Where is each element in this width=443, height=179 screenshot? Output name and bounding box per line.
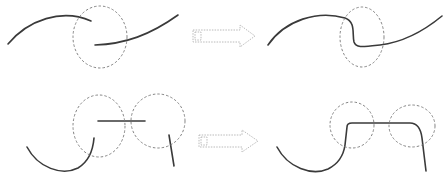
- dashed-circle-right: [389, 105, 435, 147]
- curve-segment-vertical: [169, 135, 174, 166]
- curve-segment-left: [8, 16, 91, 44]
- diagram-canvas: Curve joining: disconnected stroke segme…: [0, 0, 443, 179]
- dashed-circle: [340, 7, 384, 67]
- curve-segment-right: [95, 15, 178, 45]
- row-1-after: [268, 7, 442, 67]
- row-2-before: [27, 94, 185, 171]
- dashed-circle-left: [330, 102, 374, 148]
- curve-segment-arc: [27, 138, 94, 171]
- dashed-circle: [73, 6, 127, 68]
- dashed-circle-left: [73, 95, 125, 157]
- row-1-before: [8, 6, 178, 68]
- row-2-arrow-icon: [199, 130, 258, 152]
- row-2-after: [277, 102, 435, 171]
- row-1-arrow-icon: [193, 25, 255, 47]
- diagram-svg: [0, 0, 443, 179]
- joined-curve: [268, 15, 442, 46]
- joined-curve: [277, 123, 426, 171]
